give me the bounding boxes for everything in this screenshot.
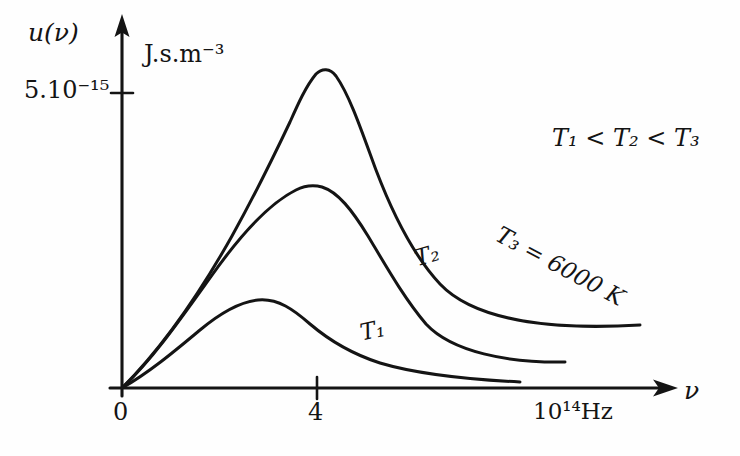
y-axis-label: u(ν): [28, 20, 79, 45]
x-axis-tick-label: 4: [308, 400, 323, 424]
blackbody-radiation-figure: u(ν) J.s.m⁻³ 5.10⁻¹⁵ 0 4 10¹⁴Hz ν T₁ < T…: [0, 0, 740, 456]
x-axis: [110, 377, 678, 399]
curve-t1: [122, 300, 520, 388]
x-axis-label: ν: [684, 378, 699, 403]
curve-t2: [122, 186, 565, 388]
plot-canvas: [0, 0, 740, 456]
y-axis-unit-label: J.s.m⁻³: [144, 42, 224, 66]
curve-label-t1: T₁: [358, 317, 387, 345]
y-axis-tick-label: 5.10⁻¹⁵: [24, 78, 109, 102]
y-axis: [111, 14, 133, 396]
x-axis-origin-label: 0: [113, 400, 128, 424]
temperature-ordering-note: T₁ < T₂ < T₃: [552, 126, 700, 150]
x-axis-unit-label: 10¹⁴Hz: [533, 400, 613, 423]
